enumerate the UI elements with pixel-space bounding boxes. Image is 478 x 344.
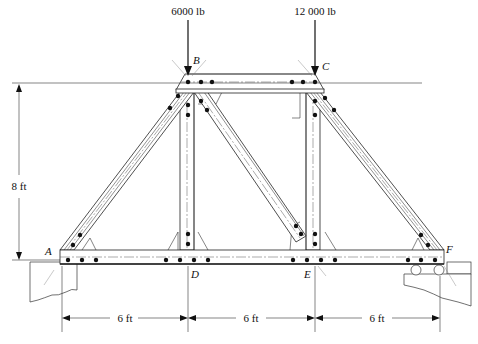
- load-arrow-B: [184, 20, 192, 76]
- height-label: 8 ft: [12, 180, 27, 192]
- load-arrow-C: [311, 20, 319, 76]
- member-CF: [306, 92, 444, 250]
- truss-diagram: 6000 lb 12 000 lb B C A D E F 8 ft 6 ft …: [0, 0, 478, 344]
- node-label-E: E: [303, 268, 311, 280]
- member-AF: [60, 250, 444, 264]
- node-label-A: A: [44, 245, 52, 257]
- load-label-B: 6000 lb: [171, 5, 205, 17]
- load-label-C: 12 000 lb: [294, 5, 336, 17]
- height-dimension: [16, 84, 22, 260]
- member-CE: [306, 90, 320, 250]
- roller-icon: [434, 265, 444, 275]
- left-support: [12, 260, 77, 302]
- span-label-3: 6 ft: [370, 312, 385, 324]
- node-label-B: B: [193, 54, 200, 66]
- span-label-1: 6 ft: [118, 312, 133, 324]
- node-label-D: D: [190, 268, 199, 280]
- node-label-F: F: [445, 243, 453, 255]
- roller-icon: [411, 265, 421, 275]
- member-BE: [194, 90, 306, 242]
- right-support: [404, 262, 471, 306]
- span-label-2: 6 ft: [244, 312, 259, 324]
- node-label-C: C: [322, 60, 330, 72]
- member-AB: [60, 92, 194, 250]
